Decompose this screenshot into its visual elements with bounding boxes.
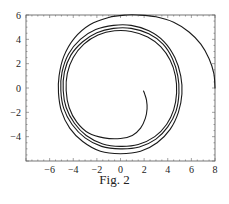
axis-tick-labels: −6−4−202468−4−20246	[10, 10, 217, 176]
plot-frame	[26, 15, 215, 161]
y-tick-label: 2	[16, 58, 21, 69]
y-tick-label: −4	[10, 131, 21, 142]
y-tick-label: −2	[10, 107, 21, 118]
y-tick-label: 6	[16, 10, 21, 21]
trajectory-curve	[58, 15, 215, 154]
y-tick-label: 4	[16, 34, 21, 45]
y-tick-label: 0	[16, 83, 21, 94]
figure-caption: Fig. 2	[0, 172, 229, 188]
axis-ticks	[26, 15, 215, 161]
plot-border	[26, 15, 215, 161]
